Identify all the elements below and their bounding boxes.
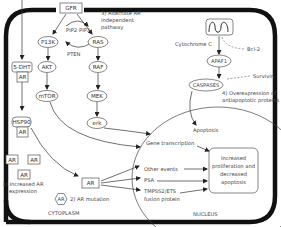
svg-text:MEK: MEK [91,93,103,99]
survivin-label: Survivin [253,73,274,79]
mitochondrion [206,19,233,35]
active-ar-box: AR [82,178,99,188]
tmpss2-label: TMPSS2/ETS [143,188,176,194]
svg-text:2) AR mutation: 2) AR mutation [70,196,109,202]
nucleus-label: NUCLEUS [193,211,218,217]
bcl2-inhibition-line [222,37,244,49]
ar-box-1: AR [6,155,18,164]
svg-text:AKT: AKT [42,64,53,70]
node-apaf1: APAF1 [207,55,231,67]
svg-text:mTOR: mTOR [38,93,55,99]
svg-text:AR: AR [20,172,28,178]
svg-text:1) Increased AR: 1) Increased AR [2,181,43,187]
pip2-to-pip3-arrow [66,21,88,26]
ar-box-3: AR [18,170,30,179]
hsp90-ar-complex: HSP90 AR [12,117,31,137]
gene-transcription-to-outcome-arrow [197,146,209,151]
fusion-protein-label: fusion protein [144,196,180,203]
svg-text:CASPASES: CASPASES [193,82,220,88]
svg-text:GFR: GFR [65,5,77,11]
svg-text:expression: expression [9,188,37,195]
svg-text:proliferation and: proliferation and [212,163,255,170]
svg-text:pathway: pathway [101,24,123,31]
outcome-box: Increased proliferation and decreased ap… [209,148,258,193]
pip2-label: PIP2 [66,27,77,33]
svg-text:AR: AR [8,157,16,163]
node-mek: MEK [87,91,107,102]
gfr-to-pi3k-arrow [53,14,66,34]
overexpression-label: 4) Overexpression of antiapoptotic prote… [222,90,280,104]
tmpss2-arrow [180,189,207,193]
svg-text:HSP90: HSP90 [12,119,31,125]
node-mtor: mTOR [36,91,58,102]
cytochrome-c-label: Cytochrome C [175,41,212,48]
svg-text:AR: AR [87,180,95,186]
node-pi3k: P13K [38,37,58,48]
svg-text:AR: AR [57,196,65,202]
pten-label: PTEN [67,51,81,57]
svg-text:apoptosis: apoptosis [221,179,246,186]
svg-text:5-DHT: 5-DHT [13,64,31,70]
gene-transcription-label: Gene transcription [146,140,194,147]
node-caspases: CASPASES [189,79,223,91]
hsp90-to-ar-arrow [31,128,78,176]
svg-text:RAS: RAS [92,39,103,45]
pip3-label: PIP3 [79,27,90,33]
cell-membrane-bottom-left [6,200,30,222]
dht-ar-complex: 5-DHT AR [12,62,32,82]
increased-ar-expression-label: 1) Increased AR expression [2,181,43,195]
svg-text:3) Alternate AR: 3) Alternate AR [101,10,141,16]
pten-arrow [66,42,91,47]
node-ras: RAS [88,37,108,48]
svg-text:AR: AR [19,74,27,80]
prostate-cancer-pathway-diagram: GFR 3) Alternate AR independent pathway … [0,0,281,227]
node-erk: erk [87,118,107,129]
caspases-to-apoptosis-arrow [190,91,196,125]
ar-mutation: AR 2) AR mutation [55,194,109,205]
svg-text:erk: erk [93,120,103,126]
svg-text:APAF1: APAF1 [211,58,227,64]
node-raf: RAF [89,62,107,73]
psa-label: PSA [144,177,155,183]
svg-text:P13K: P13K [41,39,55,45]
svg-text:Increased: Increased [221,155,246,161]
cytoplasm-label: CYTOPLASM [48,210,79,216]
svg-text:independent: independent [101,17,134,24]
gfr-receptor: GFR [60,3,82,13]
svg-text:decreased: decreased [220,171,247,177]
svg-text:AR: AR [19,129,27,135]
other-events-label: Other events [144,166,178,172]
svg-text:RAF: RAF [93,64,104,70]
node-akt: AKT [38,62,56,73]
bcl2-label: Bcl-2 [247,46,260,52]
erk-to-nucleus-arrow [104,128,150,134]
survivin-inhibition-line [227,76,250,79]
svg-text:AR: AR [30,157,38,163]
ar-box-2: AR [28,155,40,164]
svg-text:antiapoptotic proteins: antiapoptotic proteins [222,97,280,104]
apoptosis-label: Apoptosis [193,127,219,134]
ar-to-tmpss2-arrow [101,185,140,190]
alternate-pathway-label: 3) Alternate AR independent pathway [101,10,141,31]
